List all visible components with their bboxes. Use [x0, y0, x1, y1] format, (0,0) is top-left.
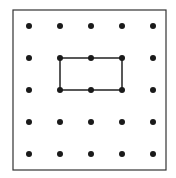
grid-dot — [119, 151, 125, 157]
grid-dot — [150, 55, 156, 61]
geoboard-diagram — [0, 0, 176, 178]
grid-dot — [26, 55, 32, 61]
grid-dot — [150, 119, 156, 125]
grid-dot — [88, 23, 94, 29]
grid-dot — [57, 119, 63, 125]
grid-dot — [119, 119, 125, 125]
grid-dot — [26, 23, 32, 29]
grid-dot — [150, 87, 156, 93]
grid-dot — [88, 87, 94, 93]
grid-dot — [88, 55, 94, 61]
grid-dot — [26, 119, 32, 125]
grid-dot — [119, 23, 125, 29]
grid-dot — [88, 119, 94, 125]
grid-dot — [57, 55, 63, 61]
grid-dot — [57, 87, 63, 93]
grid-dot — [119, 55, 125, 61]
grid-dot — [150, 151, 156, 157]
grid-dot — [150, 23, 156, 29]
grid-dot — [57, 23, 63, 29]
rectangle-shape — [60, 58, 122, 90]
grid-dot — [57, 151, 63, 157]
grid-dot — [26, 151, 32, 157]
grid-dot — [26, 87, 32, 93]
grid-dot — [88, 151, 94, 157]
grid-dot — [119, 87, 125, 93]
